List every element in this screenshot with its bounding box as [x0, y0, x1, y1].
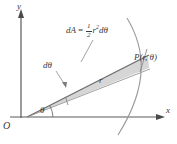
y-axis-label: y [17, 2, 21, 11]
formula-numerator: 1 [86, 23, 92, 30]
dtheta-label: dθ [43, 61, 52, 70]
origin-label: O [3, 121, 10, 131]
formula-leader-line [81, 40, 93, 62]
dtheta-leader-arrowhead [62, 82, 67, 88]
area-formula: dA=12r2dθ [66, 23, 108, 39]
polar-area-diagram: y x O θ dθ r P(r, θ) dA=12r2dθ [0, 0, 177, 144]
formula-equals: = [76, 25, 85, 35]
formula-lhs: dA [66, 25, 76, 35]
radius-label: r [99, 76, 103, 85]
x-axis-label: x [166, 106, 170, 115]
formula-fraction: 12 [86, 23, 92, 39]
formula-differential: dθ [99, 25, 108, 35]
formula-denominator: 2 [86, 32, 92, 39]
point-label: P(r, θ) [134, 53, 157, 62]
x-axis-arrowhead [156, 114, 165, 120]
theta-label: θ [40, 106, 44, 115]
